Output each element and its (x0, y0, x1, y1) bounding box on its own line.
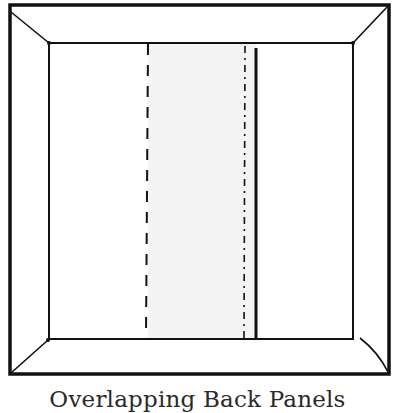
miter-bottom-right (360, 338, 388, 372)
right-panel-edge-dashdot (244, 46, 245, 338)
diagram-caption: Overlapping Back Panels (0, 386, 395, 412)
corner-dot (351, 41, 355, 45)
panel-overlap-region (148, 44, 256, 338)
miter-bottom-left (11, 340, 48, 373)
overlapping-back-panels-diagram (0, 0, 395, 380)
miter-top-left (11, 12, 49, 43)
corner-dot (46, 338, 50, 342)
miter-top-right (353, 6, 388, 43)
corner-dot (47, 41, 51, 45)
left-panel-edge-dashed (146, 44, 148, 338)
